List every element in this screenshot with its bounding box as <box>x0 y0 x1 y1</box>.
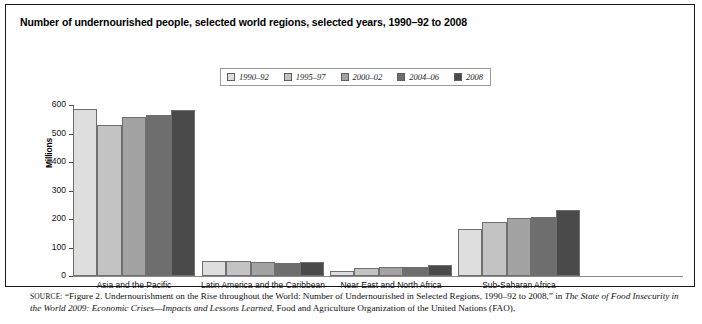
figure-container: Number of undernourished people, selecte… <box>5 4 695 287</box>
bar <box>531 217 556 276</box>
bar <box>171 110 196 276</box>
y-tick-label: 600 <box>52 99 66 109</box>
plot-area: Millions 0100200300400500600 Asia and th… <box>6 5 694 286</box>
bar <box>97 125 122 276</box>
bar-group <box>458 105 581 276</box>
bar-group <box>202 105 325 276</box>
bar <box>275 263 300 276</box>
bar <box>146 115 171 276</box>
bar <box>507 218 532 276</box>
y-axis-ticks: 0100200300400500600 <box>40 5 66 286</box>
bar <box>122 117 147 276</box>
y-tick-mark <box>69 276 73 277</box>
bar <box>226 261 251 276</box>
y-tick-label: 100 <box>52 242 66 252</box>
x-axis-line <box>73 276 683 277</box>
bar <box>73 109 98 276</box>
bar <box>251 262 276 276</box>
bar <box>458 229 483 276</box>
y-tick-label: 300 <box>52 185 66 195</box>
source-text-2: , Food and Agriculture Organization of t… <box>272 303 515 313</box>
y-tick-mark <box>69 248 73 249</box>
bar-group <box>330 105 453 276</box>
bar <box>556 210 581 276</box>
bar <box>300 262 325 276</box>
bar <box>354 268 379 276</box>
y-tick-label: 400 <box>52 156 66 166</box>
y-tick-mark <box>69 105 73 106</box>
source-prefix: SOURCE: <box>30 292 63 301</box>
bar <box>330 271 355 276</box>
y-tick-label: 500 <box>52 128 66 138</box>
figure-page: Number of undernourished people, selecte… <box>0 0 702 324</box>
source-note: SOURCE: “Figure 2. Undernourishment on t… <box>30 291 690 314</box>
bar <box>379 267 404 276</box>
source-text-1: “Figure 2. Undernourishment on the Rise … <box>63 291 565 301</box>
y-tick-mark <box>69 162 73 163</box>
y-tick-label: 200 <box>52 213 66 223</box>
x-axis-category-label: Sub-Saharan Africa <box>419 280 619 290</box>
bar <box>403 267 428 276</box>
bar-group <box>73 105 196 276</box>
bar <box>428 265 453 276</box>
y-tick-label: 0 <box>61 270 66 280</box>
y-tick-mark <box>69 134 73 135</box>
y-tick-mark <box>69 219 73 220</box>
bar <box>202 261 227 276</box>
y-tick-mark <box>69 191 73 192</box>
bar-groups <box>73 105 683 276</box>
bar <box>482 222 507 276</box>
